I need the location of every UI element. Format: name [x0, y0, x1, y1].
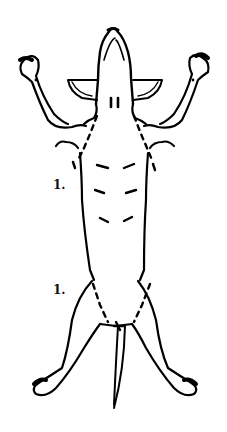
head — [96, 28, 133, 104]
left-foreleg — [20, 56, 86, 148]
trunk — [80, 153, 148, 280]
dashed-hind-lines — [93, 284, 150, 322]
animal-outline-drawing — [0, 0, 227, 432]
dashed-shoulder-lines — [78, 116, 152, 160]
label-thorax: 1. — [53, 179, 66, 191]
right-foreleg — [144, 54, 208, 148]
ventral-dash-marks — [73, 162, 155, 222]
ears — [68, 80, 162, 100]
label-abdomen: 1. — [53, 284, 66, 296]
tail — [114, 322, 125, 408]
throat-marks — [111, 98, 118, 107]
